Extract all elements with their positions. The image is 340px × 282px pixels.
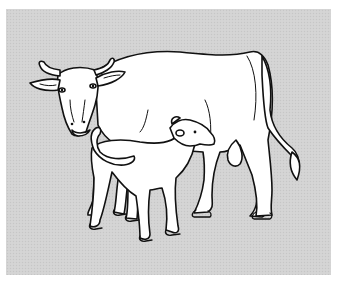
cow-left-horn [39, 61, 60, 76]
cow-and-calf-illustration [0, 0, 340, 282]
cow-nostril-right [83, 121, 86, 124]
cow-nostril-left [71, 123, 74, 126]
calf-ear-inner [176, 130, 184, 136]
cow-head [57, 68, 98, 136]
calf-body [90, 135, 195, 239]
calf-eye [194, 131, 197, 134]
